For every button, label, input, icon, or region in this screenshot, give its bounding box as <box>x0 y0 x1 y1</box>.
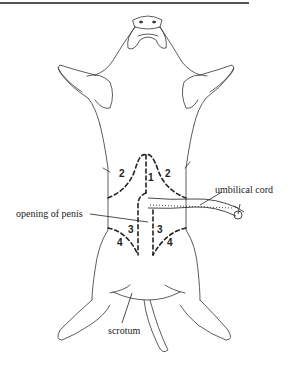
region-4-right: 4 <box>167 237 173 248</box>
label-opening-of-penis: opening of penis <box>16 208 83 219</box>
label-scrotum: scrotum <box>108 325 140 336</box>
region-4-left: 4 <box>117 237 123 248</box>
region-3-left: 3 <box>128 224 134 235</box>
region-3-right: 3 <box>157 224 163 235</box>
region-2-left: 2 <box>119 168 125 179</box>
region-2-right: 2 <box>165 168 171 179</box>
region-1: 1 <box>148 172 154 183</box>
label-umbilical-cord: umbilical cord <box>215 184 273 195</box>
